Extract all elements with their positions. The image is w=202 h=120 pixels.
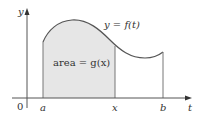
y-axis-label: y [17,6,24,17]
tick-label-b: b [160,102,166,113]
curve-label: y = f(t) [103,19,140,30]
tick-label-x: x [112,102,118,113]
area-label: area = g(x) [53,57,110,68]
area-function-diagram: y t 0 a x b y = f(t) area = g(x) [0,0,202,120]
x-axis-label: t [188,102,193,113]
x-axis-arrow-icon [185,96,192,101]
diagram-canvas: y t 0 a x b y = f(t) area = g(x) [0,0,202,120]
origin-label: 0 [17,101,23,112]
y-axis-arrow-icon [25,8,30,15]
tick-label-a: a [40,102,46,113]
